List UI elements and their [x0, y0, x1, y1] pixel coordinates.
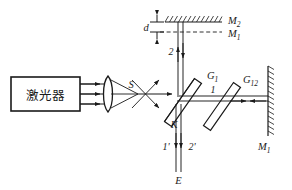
beam-1-prime-label: 1'	[162, 141, 170, 152]
spacing-dimension: d	[143, 15, 164, 39]
observer-e-label: E	[174, 175, 182, 186]
mirror-m2-label: M2	[227, 15, 241, 29]
vertical-beam-arm	[178, 22, 183, 95]
mirror-m1-hatching	[268, 66, 274, 135]
focus-point-label: S	[128, 79, 134, 90]
beam-2-prime-label: 2'	[188, 141, 196, 152]
laser-box-label: 激光器	[26, 88, 65, 103]
beam-2-label: 2	[169, 46, 174, 57]
diagram-canvas: 激光器 S	[0, 0, 292, 190]
laser-source-box: 激光器	[11, 77, 80, 111]
beamsplitter-g1-label: G1	[207, 70, 218, 84]
beam-1-label: 1	[211, 84, 216, 95]
mirror-m1-label: M1	[257, 141, 271, 155]
compensator-g12-label: G12	[243, 74, 258, 88]
mirror-m2: M2	[165, 15, 241, 29]
compensator-g12-body	[204, 83, 241, 131]
optics-diagram: 激光器 S	[0, 0, 292, 190]
mirror-m1: M1	[257, 66, 274, 155]
mirror-m2-hatching	[165, 16, 222, 22]
spacing-label: d	[143, 22, 149, 33]
compensator-g12: G12	[204, 74, 259, 130]
mirror-m1-virtual: M1	[160, 28, 241, 42]
coating-k-label: K	[170, 119, 179, 130]
laser-output-rays	[80, 84, 104, 104]
mirror-m1-virtual-label: M1	[227, 28, 241, 42]
